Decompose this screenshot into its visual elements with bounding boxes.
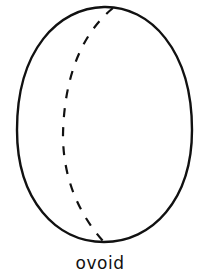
shape-label: ovoid xyxy=(0,253,197,273)
ovoid-diagram xyxy=(0,0,197,279)
ovoid-outline xyxy=(17,7,192,242)
dashed-meridian xyxy=(63,8,113,241)
